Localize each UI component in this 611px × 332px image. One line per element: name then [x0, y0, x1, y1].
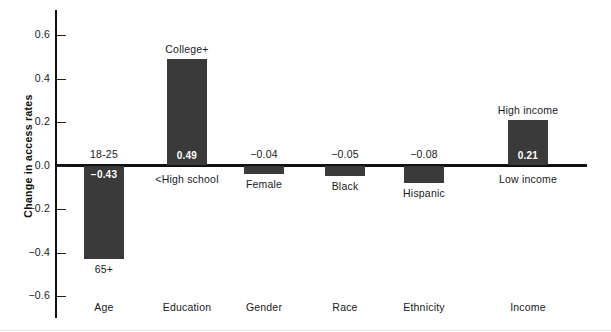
y-tick-mark	[57, 166, 66, 167]
y-tick-mark	[57, 296, 66, 297]
bar-comparison-label: Low income	[463, 173, 593, 185]
bar	[325, 166, 365, 177]
y-tick-label: −0.6	[14, 289, 50, 301]
y-tick-label: −0.4	[14, 246, 50, 258]
y-tick-mark	[57, 209, 66, 210]
category-label: Ethnicity	[364, 301, 484, 313]
bar-value-label: −0.08	[389, 148, 459, 160]
bar-value-label: 0.49	[157, 150, 217, 161]
bar-comparison-label: 65+	[39, 263, 169, 275]
bar	[404, 166, 444, 183]
bar-value-label: −0.04	[229, 148, 299, 160]
y-tick-mark	[57, 122, 66, 123]
bar-reference-label: High income	[463, 104, 593, 116]
category-label: Income	[468, 301, 588, 313]
y-tick-label: 0.2	[14, 115, 50, 127]
y-tick-label: 0.0	[14, 159, 50, 171]
bar	[84, 166, 124, 260]
bar-value-label: −0.05	[310, 148, 380, 160]
y-tick-label: 0.4	[14, 72, 50, 84]
bar	[244, 166, 284, 175]
y-tick-mark	[57, 253, 66, 254]
bar-comparison-label: Hispanic	[359, 187, 489, 199]
bar-reference-label: College+	[122, 43, 252, 55]
bar-reference-label: 18-25	[39, 148, 169, 160]
bottom-frame-rule	[0, 330, 611, 331]
y-axis-title: Change in access rates	[22, 66, 34, 246]
y-tick-mark	[57, 79, 66, 80]
y-tick-mark	[57, 35, 66, 36]
y-tick-label: −0.2	[14, 202, 50, 214]
y-tick-label: 0.6	[14, 28, 50, 40]
bar-value-label: 0.21	[498, 150, 558, 161]
bar-chart: Change in access rates 0.60.40.20.0−0.2−…	[0, 0, 611, 332]
